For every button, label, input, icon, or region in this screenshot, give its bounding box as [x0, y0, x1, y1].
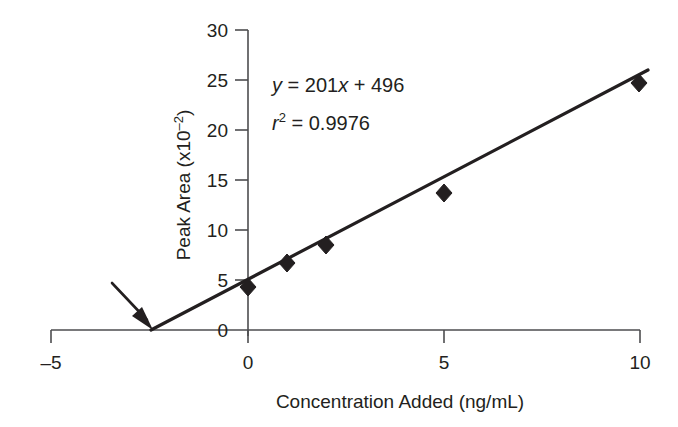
- x-intercept-arrow-annotation: [112, 283, 153, 330]
- chart-canvas: –5 0 5 10 Concentration Added (ng/mL) 30…: [0, 0, 678, 427]
- x-axis-title: Concentration Added (ng/mL): [276, 391, 524, 412]
- y-tick-label-15: 15: [207, 170, 228, 191]
- x-axis-group: –5 0 5 10 Concentration Added (ng/mL): [40, 330, 650, 412]
- r-exponent: 2: [279, 110, 286, 125]
- data-point-marker: [318, 236, 334, 254]
- calibration-chart-figure: –5 0 5 10 Concentration Added (ng/mL) 30…: [0, 0, 678, 427]
- r-squared-value: = 0.9976: [286, 112, 370, 134]
- y-tick-label-20: 20: [207, 120, 228, 141]
- y-tick-label-0: 0: [217, 320, 228, 341]
- equation-annotations: y = 201x + 496 r2 = 0.9976: [270, 74, 404, 134]
- equation-part-2: + 496: [348, 74, 404, 96]
- y-axis-title-suffix: ): [173, 110, 194, 116]
- regression-line-group: [151, 70, 648, 330]
- y-axis-title-prefix: Peak Area (x10: [173, 130, 194, 260]
- equation-part-1: = 201: [282, 74, 338, 96]
- y-tick-label-30: 30: [207, 20, 228, 41]
- regression-equation-text: y = 201x + 496: [270, 74, 404, 96]
- y-axis-group: 30 25 20 15 10 5 0 Peak Area (x10–2): [171, 20, 248, 341]
- regression-fit-line: [151, 70, 648, 330]
- x-tick-label--5: –5: [40, 352, 61, 373]
- y-axis-title-exponent: –2: [171, 116, 186, 130]
- y-tick-label-10: 10: [207, 220, 228, 241]
- x-tick-label-5: 5: [439, 352, 450, 373]
- y-tick-label-5: 5: [217, 270, 228, 291]
- data-series-markers: [240, 74, 647, 296]
- annotation-arrow-head-icon: [132, 307, 153, 330]
- y-axis-title: Peak Area (x10–2): [171, 110, 194, 261]
- data-point-marker: [436, 184, 452, 202]
- x-tick-label-0: 0: [243, 352, 254, 373]
- x-tick-label-10: 10: [629, 352, 650, 373]
- r-squared-text: r2 = 0.9976: [272, 110, 370, 134]
- y-tick-label-25: 25: [207, 70, 228, 91]
